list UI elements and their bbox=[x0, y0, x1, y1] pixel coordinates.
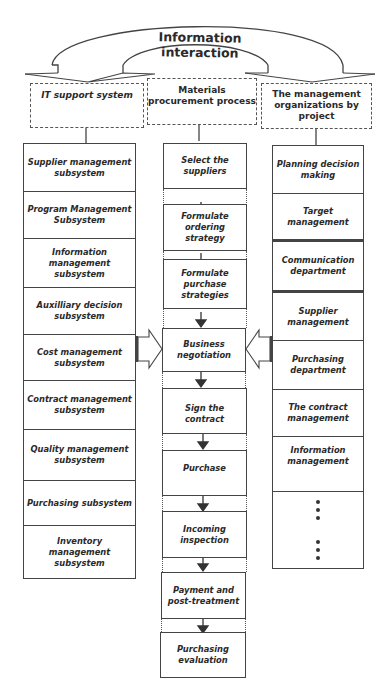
step-formulate-ordering-strategy: Formulate ordering strategy bbox=[163, 204, 247, 251]
gap-connector bbox=[163, 251, 247, 259]
gap-connector bbox=[162, 558, 247, 572]
left-column: Supplier management subsystem Program Ma… bbox=[23, 143, 136, 579]
right-box-communication-department: Communication department bbox=[272, 240, 364, 291]
left-box-contract-management: Contract management subsystem bbox=[23, 381, 136, 430]
left-box-auxilliary-decision: Auxilliary decision subsystem bbox=[23, 288, 136, 335]
left-box-purchasing: Purchasing subsystem bbox=[23, 481, 136, 526]
right-box-supplier-management: Supplier management bbox=[272, 291, 364, 341]
step-select-suppliers: Select the suppliers bbox=[163, 143, 247, 189]
step-payment-post-treatment: Payment and post-treatment bbox=[161, 572, 246, 619]
right-box-contract-management: The contract management bbox=[272, 390, 364, 437]
header-materials-procurement-process: Materials procurement process bbox=[147, 78, 257, 125]
gap-connector bbox=[161, 619, 246, 632]
left-box-quality-management: Quality management subsystem bbox=[23, 430, 136, 481]
right-box-ellipsis bbox=[272, 492, 364, 569]
gap-connector bbox=[163, 309, 247, 328]
ellipsis-dots-icon bbox=[316, 500, 320, 560]
gap-connector bbox=[162, 434, 247, 450]
header-it-support-system: IT support system bbox=[30, 83, 144, 128]
left-box-information-management: Information management subsystem bbox=[23, 239, 136, 288]
arc-label: Information interaction bbox=[120, 29, 280, 62]
left-box-supplier-management: Supplier management subsystem bbox=[23, 143, 136, 192]
gap-connector bbox=[163, 189, 247, 203]
left-box-program-management: Program Management Subsystem bbox=[23, 192, 136, 239]
gap-connector bbox=[162, 496, 247, 511]
step-formulate-purchase-strategies: Formulate purchase strategies bbox=[163, 259, 247, 309]
step-purchasing-evaluation: Purchasing evaluation bbox=[160, 632, 246, 678]
right-box-planning-decision: Planning decision making bbox=[272, 145, 364, 194]
left-box-inventory-management: Inventory management subsystem bbox=[23, 526, 136, 579]
right-box-information-management: Information management bbox=[272, 437, 364, 492]
step-sign-the-contract: Sign the contract bbox=[162, 388, 247, 434]
step-business-negotiation: Business negotiation bbox=[162, 328, 246, 372]
right-column: Planning decision making Target manageme… bbox=[272, 145, 364, 569]
right-box-target-management: Target management bbox=[272, 194, 364, 240]
right-box-purchasing-department: Purchasing department bbox=[272, 341, 364, 390]
left-box-cost-management: Cost management subsystem bbox=[23, 335, 136, 381]
header-management-organizations: The management organizations by project bbox=[261, 83, 372, 129]
step-purchase: Purchase bbox=[162, 450, 247, 496]
gap-connector bbox=[162, 372, 246, 388]
step-incoming-inspection: Incoming inspection bbox=[162, 511, 247, 558]
